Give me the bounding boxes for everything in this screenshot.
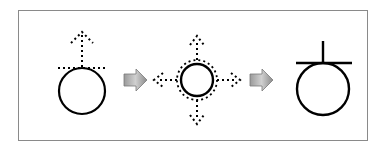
- step-1: [58, 32, 108, 114]
- diagram-canvas: [0, 0, 388, 152]
- step-2: [154, 36, 240, 124]
- step-2-dotted-outline: [177, 60, 217, 100]
- step-3-circle: [297, 63, 349, 115]
- step-1-circle: [59, 68, 105, 114]
- step-2-circle: [181, 64, 213, 96]
- arrow-right-icon: [124, 69, 147, 91]
- step-3: [296, 41, 352, 115]
- arrow-right-icon: [250, 69, 273, 91]
